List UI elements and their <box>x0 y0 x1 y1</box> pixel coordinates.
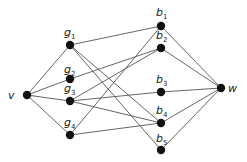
label-b1: b1 <box>156 6 167 21</box>
label-g4: g4 <box>64 116 76 131</box>
edge-b1-w <box>161 26 221 88</box>
node-b5 <box>157 146 165 154</box>
label-v: v <box>8 89 15 102</box>
edges <box>27 26 221 150</box>
label-w: w <box>228 82 237 95</box>
edge-g3-b4 <box>70 101 161 123</box>
node-g4 <box>66 131 74 139</box>
label-b3: b3 <box>156 73 167 88</box>
label-g3: g3 <box>64 82 75 97</box>
label-b4: b4 <box>156 104 168 119</box>
label-b5: b5 <box>156 132 167 147</box>
edge-b4-w <box>161 88 221 123</box>
edge-v-g4 <box>27 95 70 135</box>
label-g2: g2 <box>64 63 75 78</box>
node-b2 <box>157 44 165 52</box>
edge-g1-b5 <box>70 45 161 150</box>
edge-g4-b4 <box>70 123 161 135</box>
edge-b3-w <box>161 88 221 92</box>
node-v <box>23 91 31 99</box>
edge-g1-b4 <box>70 45 161 123</box>
node-g3 <box>66 97 74 105</box>
edge-b2-w <box>161 48 221 88</box>
nodes <box>23 22 225 154</box>
edge-v-g3 <box>27 95 70 101</box>
graph-diagram: vg1g2g3g4b1b2b3b4b5w <box>0 0 247 162</box>
node-w <box>217 84 225 92</box>
node-b4 <box>157 119 165 127</box>
edge-b5-w <box>161 88 221 150</box>
node-b3 <box>157 88 165 96</box>
label-g1: g1 <box>64 26 75 41</box>
node-g1 <box>66 41 74 49</box>
